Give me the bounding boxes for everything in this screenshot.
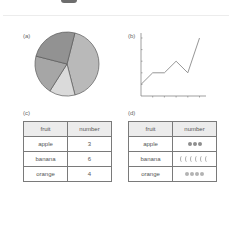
fruit-number-table: fruit number apple 3 banana 6 orange 4	[23, 121, 112, 182]
cell-number: 3	[68, 137, 112, 152]
cell-fruit: orange	[24, 167, 68, 182]
cell-number: 6	[68, 152, 112, 167]
cell-fruit: apple	[129, 137, 173, 152]
orange-icon	[190, 172, 194, 176]
table-row: apple	[129, 137, 217, 152]
panel-label-d: (d)	[128, 110, 135, 116]
apple-icon	[193, 142, 197, 146]
table-row: banana 6	[24, 152, 112, 167]
orange-icon	[185, 172, 189, 176]
banana-icon	[180, 156, 184, 162]
cell-number: 4	[68, 167, 112, 182]
header-fruit: fruit	[24, 122, 68, 137]
header-number: number	[68, 122, 112, 137]
table-row: apple 3	[24, 137, 112, 152]
header-number: number	[173, 122, 217, 137]
table-row: orange	[129, 167, 217, 182]
panel-label-c: (c)	[23, 110, 30, 116]
banana-icon	[200, 156, 204, 162]
apple-icon	[188, 142, 192, 146]
banana-icon	[190, 156, 194, 162]
banana-icon	[195, 156, 199, 162]
banana-icon	[185, 156, 189, 162]
cell-fruit: banana	[129, 152, 173, 167]
line-series	[141, 38, 200, 84]
orange-icon	[195, 172, 199, 176]
header-fruit: fruit	[129, 122, 173, 137]
cell-pictogram	[173, 152, 217, 167]
cell-pictogram	[173, 167, 217, 182]
fruit-pictogram-table: fruit number apple banana orange	[128, 121, 217, 182]
cell-fruit: orange	[129, 167, 173, 182]
banana-icon	[205, 156, 209, 162]
apple-icon	[198, 142, 202, 146]
cell-fruit: apple	[24, 137, 68, 152]
table-row: orange 4	[24, 167, 112, 182]
cell-pictogram	[173, 137, 217, 152]
cell-fruit: banana	[24, 152, 68, 167]
table-row: banana	[129, 152, 217, 167]
orange-icon	[200, 172, 204, 176]
